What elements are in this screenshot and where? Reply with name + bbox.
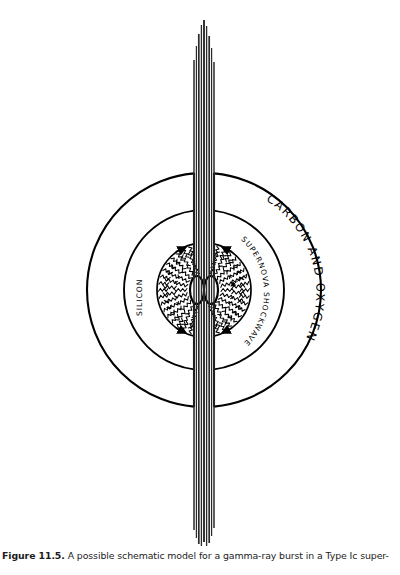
shockwave-squiggle (166, 263, 175, 269)
shockwave-squiggle (234, 262, 240, 270)
shockwave-squiggle (240, 282, 249, 286)
shockwave-squiggle (182, 269, 192, 278)
shockwave-squiggle (218, 256, 226, 267)
figure-container: CARBON AND OXYGEN SUPERNOVA SHOCKWAVE SI… (0, 0, 400, 575)
shockwave-squiggle (182, 250, 189, 257)
shockwave-squiggle (231, 297, 244, 303)
shockwave-squiggle (159, 282, 169, 286)
shockwave-squiggle (240, 289, 250, 292)
shockwave-squiggle (232, 311, 241, 317)
shockwave-squiggle (228, 316, 237, 322)
shockwave-squiggle (218, 298, 230, 306)
shockwave-squiggle (220, 249, 225, 259)
carbon-oxygen-label-text: CARBON AND OXYGEN (264, 191, 327, 344)
figure-number: Figure 11.5. (2, 550, 65, 561)
shockwave-squiggle (219, 323, 226, 330)
shockwave-squiggle (182, 313, 190, 324)
shockwave-squiggle (178, 275, 190, 283)
label-silicon: SILICON (135, 279, 144, 317)
svg-text:CARBON AND OXYGEN: CARBON AND OXYGEN (264, 191, 327, 344)
figure-caption: Figure 11.5. A possible schematic model … (2, 550, 398, 562)
shockwave-squiggle (227, 265, 237, 274)
shockwave-squiggle (239, 295, 249, 299)
supernova-schematic-diagram: CARBON AND OXYGEN SUPERNOVA SHOCKWAVE SI… (0, 0, 400, 575)
shockwave-squiggle (183, 321, 188, 331)
shockwave-squiggle (159, 294, 168, 298)
shockwave-squiggle (171, 258, 180, 264)
shockwave-squiggle (216, 302, 226, 311)
shockwave-squiggle (163, 285, 176, 289)
shockwave-squiggle (230, 257, 236, 266)
shockwave-squiggle (172, 314, 178, 323)
shockwave-squiggle (232, 291, 245, 295)
shockwave-squiggle (168, 310, 174, 318)
shockwave-squiggle (165, 278, 178, 284)
silicon-label-text: SILICON (135, 279, 144, 317)
figure-caption-text: A possible schematic model for a gamma-r… (68, 550, 389, 561)
shockwave-squiggle (171, 306, 181, 315)
shockwave-squiggle (159, 288, 169, 291)
